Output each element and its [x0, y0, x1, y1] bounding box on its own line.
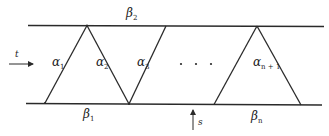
- ellipsis-dot: [180, 63, 182, 65]
- label-t: t: [15, 49, 19, 59]
- vertex-dot: [44, 102, 46, 104]
- label-s: s: [198, 117, 203, 127]
- top-boundary-line: [28, 26, 324, 27]
- vertex-dot: [86, 25, 88, 27]
- label-alpha-2: α2: [96, 55, 109, 71]
- label-alpha-3: α3: [137, 55, 150, 71]
- label-beta-1: β1: [82, 107, 94, 123]
- ellipsis-dot: [195, 63, 197, 65]
- zigzag-diagram: β2 β1 βn α1 α2 α3 αn + 1 t s: [0, 0, 329, 136]
- label-alpha-n-plus-1: αn + 1: [253, 55, 280, 71]
- segment-alpha-n-left: [214, 26, 257, 105]
- label-beta-2: β2: [125, 6, 137, 22]
- ellipsis-dot: [210, 63, 212, 65]
- label-alpha-1: α1: [52, 55, 65, 71]
- bottom-boundary-line: [26, 104, 322, 106]
- vertex-dot: [128, 103, 130, 105]
- label-beta-n: βn: [250, 109, 263, 125]
